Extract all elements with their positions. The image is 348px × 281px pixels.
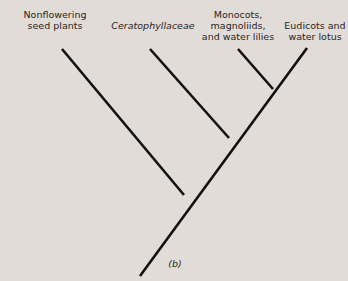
trunk-branch: [140, 48, 307, 276]
label-line: Monocots,: [193, 9, 283, 20]
branch-nonflowering: [62, 49, 184, 195]
branch-monocots: [238, 49, 273, 89]
taxon-label-eudicots: Eudicots and water lotus: [283, 20, 347, 42]
cladogram-tree: [0, 0, 348, 281]
label-line: seed plants: [10, 20, 100, 31]
label-line: water lotus: [283, 31, 347, 42]
taxon-label-ceratophyllaceae: Ceratophyllaceae: [98, 20, 208, 31]
label-line: Ceratophyllaceae: [98, 20, 208, 31]
label-line: magnoliids,: [193, 20, 283, 31]
figure-caption: (b): [160, 258, 190, 269]
taxon-label-nonflowering: Nonflowering seed plants: [10, 9, 100, 31]
label-line: Eudicots and: [283, 20, 347, 31]
branch-ceratophyllaceae: [150, 49, 229, 138]
taxon-label-monocots: Monocots, magnoliids, and water lilies: [193, 9, 283, 42]
label-line: and water lilies: [193, 31, 283, 42]
label-line: Nonflowering: [10, 9, 100, 20]
